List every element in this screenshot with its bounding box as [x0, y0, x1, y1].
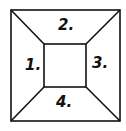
label-region-3: 3.	[92, 56, 108, 71]
label-region-4: 4.	[56, 95, 72, 110]
diagonal-bottom-left	[11, 87, 44, 121]
label-region-1: 1.	[25, 58, 41, 73]
label-region-2: 2.	[58, 18, 74, 33]
inner-square	[44, 44, 86, 87]
diagonal-top-left	[11, 10, 44, 44]
diagonal-bottom-right	[86, 87, 120, 121]
diagonal-top-right	[86, 10, 120, 44]
